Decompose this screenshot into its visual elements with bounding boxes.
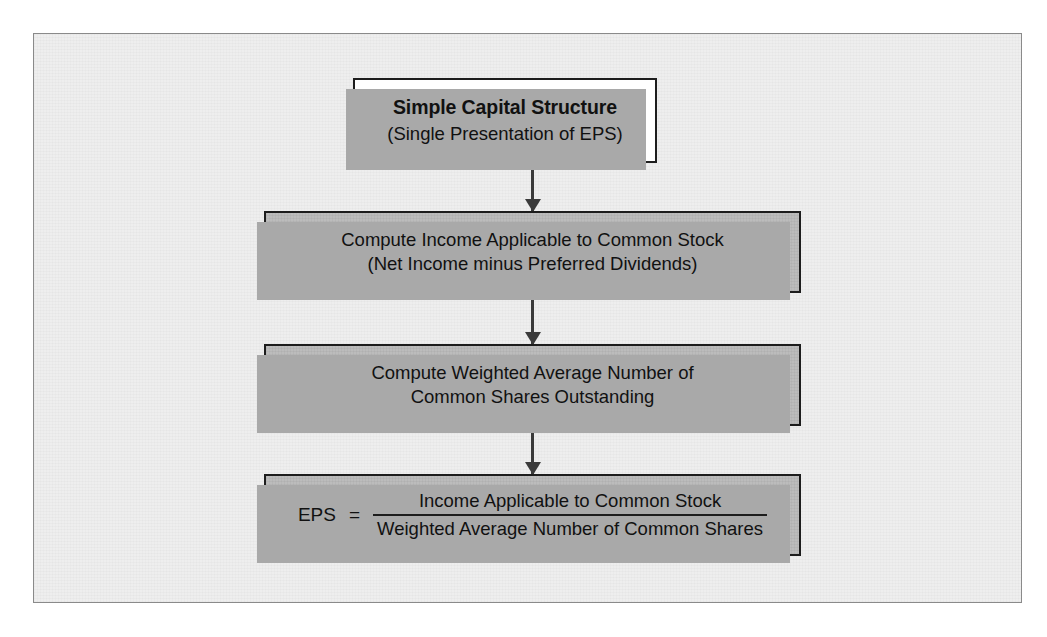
eps-formula-numerator: Income Applicable to Common Stock <box>415 490 725 514</box>
eps-formula-equals: = <box>349 504 360 526</box>
node-shares-text: Compute Weighted Average Number of Commo… <box>371 361 693 409</box>
eps-formula: EPS = Income Applicable to Common Stock … <box>266 490 799 540</box>
node-title-line2: (Single Presentation of EPS) <box>387 122 623 146</box>
node-simple-capital-structure: Simple Capital Structure (Single Present… <box>353 78 657 163</box>
connector-title-to-income <box>531 163 534 211</box>
node-compute-income-applicable: Compute Income Applicable to Common Stoc… <box>264 211 801 293</box>
node-eps-formula: EPS = Income Applicable to Common Stock … <box>264 474 801 556</box>
node-income-line2: (Net Income minus Preferred Dividends) <box>341 252 724 276</box>
node-title-text: Simple Capital Structure (Single Present… <box>387 95 623 146</box>
node-shares-line1: Compute Weighted Average Number of <box>371 361 693 385</box>
eps-formula-fraction: Income Applicable to Common Stock Weight… <box>373 490 767 540</box>
node-title-line1: Simple Capital Structure <box>387 95 623 120</box>
eps-formula-lhs: EPS <box>298 504 336 526</box>
node-income-line1: Compute Income Applicable to Common Stoc… <box>341 228 724 252</box>
connector-income-to-shares <box>531 293 534 344</box>
node-income-text: Compute Income Applicable to Common Stoc… <box>341 228 724 276</box>
node-compute-weighted-average-shares: Compute Weighted Average Number of Commo… <box>264 344 801 426</box>
connector-shares-to-formula <box>531 426 534 474</box>
figure-panel: Simple Capital Structure (Single Present… <box>33 33 1022 603</box>
eps-formula-denominator: Weighted Average Number of Common Shares <box>373 516 767 540</box>
node-shares-line2: Common Shares Outstanding <box>371 385 693 409</box>
